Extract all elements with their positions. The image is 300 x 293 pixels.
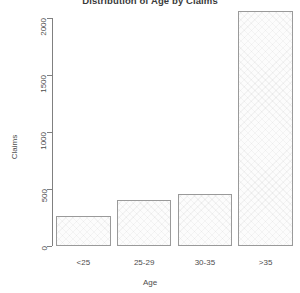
bar-series xyxy=(0,0,300,293)
x-axis-tick-label: 30-35 xyxy=(175,258,236,267)
bar-chart: Distribution of Age by Claims Claims 050… xyxy=(0,0,300,293)
x-axis-tick-label: 25-29 xyxy=(114,258,175,267)
bar xyxy=(117,200,172,246)
x-axis-label: Age xyxy=(0,278,300,287)
bar xyxy=(178,194,233,246)
x-axis-tick-label: >35 xyxy=(235,258,296,267)
bar xyxy=(56,216,111,246)
x-axis-tick-label: <25 xyxy=(53,258,114,267)
bar xyxy=(238,11,293,246)
